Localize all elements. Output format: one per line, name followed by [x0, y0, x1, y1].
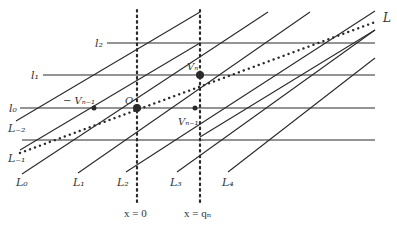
diagonal-lines — [16, 11, 375, 174]
diagonal-line-L3 — [177, 30, 375, 172]
label-L-2: L₋₂ — [7, 122, 26, 135]
label-point-O: O — [125, 95, 133, 106]
point-O — [133, 104, 141, 112]
label-L0: L₀ — [15, 176, 28, 189]
diagram-svg: l₂l₁l₀L₋₂L₋₁L₀L₁L₂L₃L₄x = 0x = qₙLOVₙ− V… — [0, 0, 397, 230]
label-l1: l₁ — [31, 69, 39, 82]
label-point-minus-Vn-1: − Vₙ₋₁ — [63, 95, 95, 106]
label-L1: L₁ — [72, 176, 85, 189]
label-L: L — [382, 11, 391, 25]
diagonal-line-extra — [200, 30, 375, 137]
labels: l₂l₁l₀L₋₂L₋₁L₀L₁L₂L₃L₄x = 0x = qₙLOVₙ− V… — [7, 11, 391, 219]
diagonal-line-L-2 — [16, 12, 200, 121]
diagonal-line-L0 — [22, 12, 268, 174]
label-point-Vn-1: Vₙ₋₁ — [178, 116, 199, 127]
point-minus-Vn-1 — [92, 106, 97, 111]
diagonal-line-L1 — [78, 12, 310, 173]
label-L2: L₂ — [116, 176, 129, 189]
label-L-1: L₋₁ — [7, 152, 26, 165]
point-Vn-1 — [193, 106, 198, 111]
label-point-Vn: Vₙ — [187, 61, 198, 72]
diagonal-line-L-1 — [20, 43, 200, 150]
label-x0: x = 0 — [124, 207, 147, 219]
label-xqn: x = qₙ — [184, 207, 212, 219]
label-l2: l₂ — [95, 37, 103, 50]
label-L3: L₃ — [169, 176, 182, 189]
label-l0: l₀ — [9, 102, 18, 115]
label-L4: L₄ — [221, 176, 234, 189]
lattice-diagram: l₂l₁l₀L₋₂L₋₁L₀L₁L₂L₃L₄x = 0x = qₙLOVₙ− V… — [0, 0, 397, 230]
point-Vn — [196, 71, 204, 79]
